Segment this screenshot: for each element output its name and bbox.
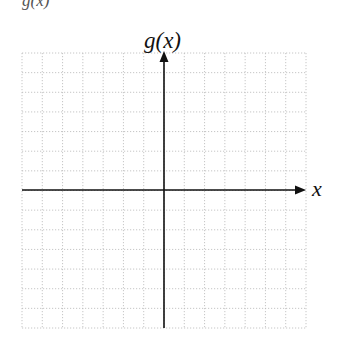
- y-axis-label: g(x): [144, 28, 181, 54]
- x-axis-label: x: [312, 176, 322, 202]
- x-axis-arrow-icon: [295, 186, 306, 195]
